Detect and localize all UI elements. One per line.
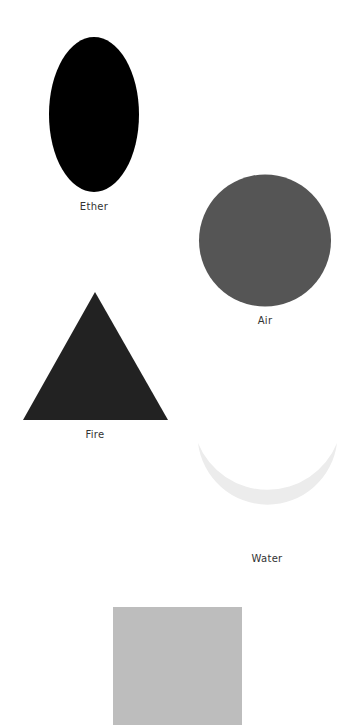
ether-ellipse [49, 37, 139, 192]
water-label: Water [217, 553, 317, 564]
air-circle [199, 175, 331, 307]
elements-diagram [0, 0, 354, 725]
water-crescent [198, 443, 337, 505]
fire-label: Fire [45, 429, 145, 440]
air-label: Air [215, 315, 315, 326]
fire-triangle [23, 292, 168, 420]
earth-square [113, 607, 242, 725]
ether-label: Ether [44, 201, 144, 212]
